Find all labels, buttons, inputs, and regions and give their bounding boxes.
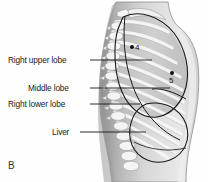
label-middle-lobe: Middle lobe [28,84,69,92]
label-right-lower-lobe: Right lower lobe [8,100,65,108]
panel-label: B [8,160,15,171]
label-right-upper-lobe: Right upper lobe [8,56,67,64]
marker-4-number: 4 [135,43,139,52]
marker-5-number: 5 [169,76,173,85]
marker-5-dot [170,71,174,75]
marker-4-dot [130,45,134,49]
label-liver: Liver [52,128,69,136]
anatomical-figure: Right upper lobe Middle lobe Right lower… [0,0,208,182]
